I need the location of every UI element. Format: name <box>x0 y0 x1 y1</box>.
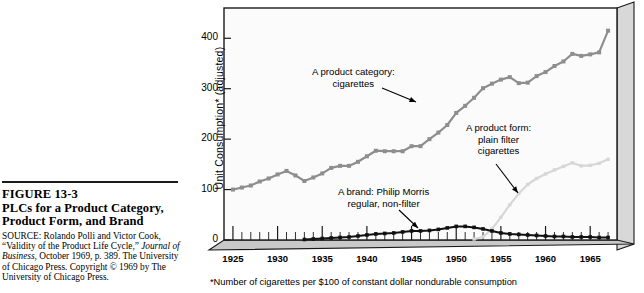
data-point <box>249 184 253 188</box>
data-point <box>383 149 387 153</box>
data-point <box>552 64 556 68</box>
data-point <box>571 235 575 239</box>
data-point <box>356 234 360 238</box>
data-point <box>588 52 592 56</box>
annotation-label-form-line-1: A product form: <box>466 122 531 134</box>
y-tick-label-100: 100 <box>188 183 218 194</box>
data-point <box>606 158 609 161</box>
x-tick-label-1965: 1965 <box>570 253 610 264</box>
data-point <box>427 137 431 141</box>
annotation-label-form: A product form:plain filtercigarettes <box>466 122 531 157</box>
data-point <box>544 234 548 238</box>
data-point <box>329 236 333 240</box>
plc-line-chart <box>196 0 644 293</box>
annotation-label-form-line-2: plain filter <box>466 134 531 146</box>
x-tick-label-1935: 1935 <box>302 253 342 264</box>
annotation-label-brand-line-2: regular, non-filter <box>338 198 429 210</box>
data-point <box>570 52 574 56</box>
data-point <box>401 230 405 234</box>
data-point <box>472 237 475 240</box>
data-point <box>535 177 538 180</box>
data-point <box>374 232 378 236</box>
data-point <box>454 111 458 115</box>
data-point <box>544 70 548 74</box>
data-point <box>562 165 565 168</box>
data-point <box>320 237 324 241</box>
caption-divider <box>2 181 178 183</box>
y-tick-label-300: 300 <box>188 82 218 93</box>
data-point <box>526 233 530 237</box>
data-point <box>571 161 574 164</box>
data-point <box>436 131 440 135</box>
data-point <box>490 82 494 86</box>
data-point <box>499 78 503 82</box>
data-point <box>580 164 583 167</box>
annotation-label-category-line-1: A product category: <box>312 66 395 78</box>
data-point <box>419 144 423 148</box>
figure-title-line-1: PLCs for a Product Category, <box>2 202 188 216</box>
data-point <box>311 175 315 179</box>
data-point <box>356 160 360 164</box>
annotation-label-form-line-3: cigarettes <box>466 145 531 157</box>
data-point <box>303 238 307 242</box>
data-point <box>597 162 600 165</box>
data-point <box>401 149 405 153</box>
data-point <box>588 235 592 239</box>
data-point <box>508 75 512 79</box>
data-point <box>606 29 610 33</box>
data-point <box>445 226 449 230</box>
data-point <box>463 225 467 229</box>
annotation-label-category-line-2: cigarettes <box>312 78 395 90</box>
figure-title-line-2: Product Form, and Brand <box>2 215 188 229</box>
data-point <box>562 235 566 239</box>
data-point <box>508 203 511 206</box>
data-point <box>589 164 592 167</box>
data-point <box>454 225 458 229</box>
data-point <box>579 54 583 58</box>
y-tick-label-0: 0 <box>188 233 218 244</box>
data-point <box>490 229 494 233</box>
data-point <box>481 86 485 90</box>
chart-footnote: *Number of cigarettes per $100 of consta… <box>210 277 517 287</box>
x-tick-label-1945: 1945 <box>392 253 432 264</box>
data-point <box>472 226 476 230</box>
source-prefix: SOURCE: Rolando Polli and Victor Cook, “… <box>2 231 161 251</box>
x-tick-label-1955: 1955 <box>481 253 521 264</box>
annotation-label-brand: A brand: Philip Morrisregular, non-filte… <box>338 186 429 209</box>
data-point <box>276 172 280 176</box>
figure-source: SOURCE: Rolando Polli and Victor Cook, “… <box>2 231 188 283</box>
data-point <box>579 235 583 239</box>
data-point <box>445 123 449 127</box>
data-point <box>472 96 476 100</box>
data-point <box>347 235 351 239</box>
data-point <box>535 74 539 78</box>
data-point <box>410 144 414 148</box>
x-tick-label-1940: 1940 <box>347 253 387 264</box>
y-tick-label-400: 400 <box>188 31 218 42</box>
data-point <box>526 183 529 186</box>
chart-container: Unit Consumption* (adjusted) 01002003004… <box>196 0 644 293</box>
x-tick-label-1960: 1960 <box>526 253 566 264</box>
data-point <box>419 229 423 233</box>
data-point <box>517 233 521 237</box>
figure-number: FIGURE 13-3 <box>2 188 188 202</box>
data-point <box>606 236 610 240</box>
data-point <box>410 229 414 233</box>
data-point <box>338 236 342 240</box>
data-point <box>553 168 556 171</box>
data-point <box>535 234 539 238</box>
data-point <box>517 81 521 85</box>
data-point <box>526 81 530 85</box>
data-point <box>392 231 396 235</box>
data-point <box>365 154 369 158</box>
data-point <box>499 216 502 219</box>
data-point <box>285 169 289 173</box>
data-point <box>365 233 369 237</box>
chart-3d-floor-panel <box>209 240 634 250</box>
x-tick-label-1925: 1925 <box>213 253 253 264</box>
data-point <box>392 149 396 153</box>
data-point <box>267 176 271 180</box>
chart-3d-side-panel <box>617 2 634 250</box>
x-tick-label-1930: 1930 <box>258 253 298 264</box>
data-point <box>312 237 316 241</box>
